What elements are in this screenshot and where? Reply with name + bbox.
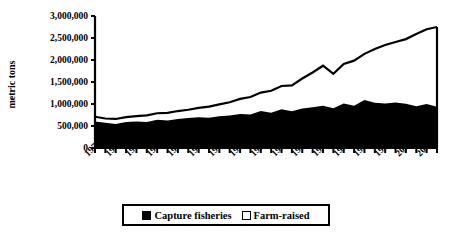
- x-axis-tick-labels: 1970197219741976197819801982198419861988…: [0, 150, 456, 198]
- chart-legend: Capture fisheries Farm-raised: [122, 204, 330, 226]
- legend-label-capture-fisheries: Capture fisheries: [154, 210, 231, 221]
- legend-swatch-farm-raised-icon: [242, 211, 251, 220]
- legend-item-farm-raised: Farm-raised: [242, 210, 310, 221]
- legend-label-farm-raised: Farm-raised: [254, 210, 310, 221]
- area-chart: metric tons 0500,0001,000,0001,500,0002,…: [0, 0, 456, 241]
- legend-swatch-capture-fisheries-icon: [142, 211, 151, 220]
- legend-item-capture-fisheries: Capture fisheries: [142, 210, 231, 221]
